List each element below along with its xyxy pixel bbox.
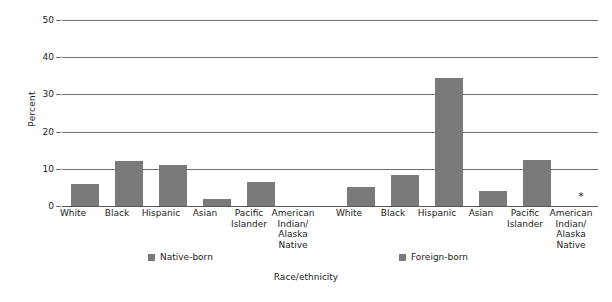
- bar-native-hispanic: [159, 165, 187, 206]
- bar-foreign-hispanic: [435, 78, 463, 206]
- x-label-text: Indian/: [267, 219, 319, 230]
- bar-foreign-black: [391, 175, 419, 206]
- x-label-text: Native: [267, 240, 319, 251]
- y-axis-tick-labels: 50 40 30 20 10 0: [28, 20, 54, 206]
- x-label-text: American: [543, 208, 599, 219]
- y-tick-50: 50: [28, 16, 54, 25]
- y-tick-dash-50: [56, 20, 61, 21]
- x-label-text: Alaska: [543, 229, 599, 240]
- bar-native-pacific-islander: [247, 182, 275, 206]
- y-tick-30: 30: [28, 90, 54, 99]
- y-tick-dash-10: [56, 169, 61, 170]
- x-label-text: Indian/: [543, 219, 599, 230]
- legend-label: Native-born: [160, 252, 213, 262]
- legend-item-native-born[interactable]: Native-born: [148, 252, 213, 262]
- bar-chart: Percent 50 40 30 20 10 0 *: [0, 0, 612, 302]
- x-label-native-american-indian: American Indian/ Alaska Native: [267, 208, 319, 250]
- bar-native-asian: [203, 199, 231, 206]
- legend-label: Foreign-born: [411, 252, 468, 262]
- x-axis-title: Race/ethnicity: [0, 272, 612, 282]
- legend-item-foreign-born[interactable]: Foreign-born: [399, 252, 468, 262]
- x-label-text: American: [267, 208, 319, 219]
- gridline-20: [62, 132, 598, 133]
- gridline-50: [62, 20, 598, 21]
- x-label-text: Native: [543, 240, 599, 251]
- legend-swatch-icon: [399, 254, 406, 261]
- y-tick-40: 40: [28, 53, 54, 62]
- bar-foreign-pacific-islander: [523, 160, 551, 207]
- bar-foreign-white: [347, 187, 375, 206]
- plot-area: *: [62, 20, 598, 206]
- y-tick-dash-40: [56, 57, 61, 58]
- legend-swatch-icon: [148, 254, 155, 261]
- gridline-0-axis: [62, 206, 598, 207]
- x-label-foreign-american-indian: American Indian/ Alaska Native: [543, 208, 599, 250]
- y-tick-dash-20: [56, 132, 61, 133]
- y-tick-20: 20: [28, 128, 54, 137]
- gridline-30: [62, 94, 598, 95]
- y-tick-dash-30: [56, 94, 61, 95]
- bar-native-white: [71, 184, 99, 206]
- bar-foreign-asian: [479, 191, 507, 206]
- bar-native-black: [115, 161, 143, 206]
- y-tick-dash-0: [56, 206, 61, 207]
- no-data-asterisk: *: [567, 191, 595, 202]
- x-label-text: Alaska: [267, 229, 319, 240]
- gridline-40: [62, 57, 598, 58]
- y-tick-10: 10: [28, 165, 54, 174]
